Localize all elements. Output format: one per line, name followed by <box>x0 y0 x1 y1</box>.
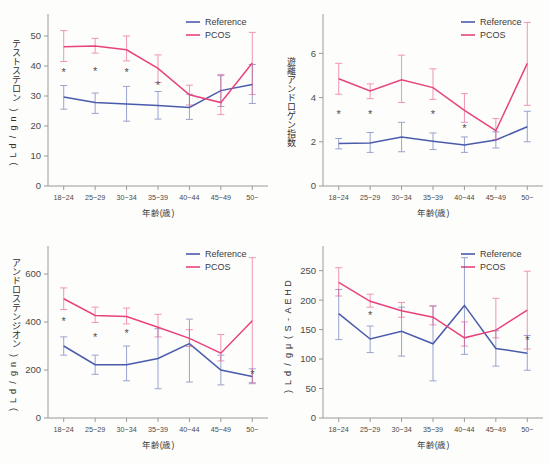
svg-text:μ: μ <box>283 344 293 349</box>
svg-text:D: D <box>283 280 293 287</box>
svg-text:/: / <box>8 135 18 138</box>
x-tick-label: 45~49 <box>211 425 231 434</box>
legend-label-reference: Reference <box>205 249 247 259</box>
y-tick-label: 2 <box>311 136 316 147</box>
significance-marker: * <box>368 108 373 120</box>
significance-marker: * <box>93 331 98 343</box>
svg-text:L: L <box>283 380 293 385</box>
x-tick-label: 40~44 <box>454 425 474 434</box>
significance-marker: * <box>431 108 436 120</box>
y-tick-label: 200 <box>300 295 316 306</box>
x-tick-label: 35~39 <box>423 193 443 202</box>
x-tick-label: 35~39 <box>148 425 168 434</box>
chart-bottom-left: 020040060018~2425~2930~3435~3940~4445~49… <box>0 232 275 463</box>
x-tick-label: 45~49 <box>211 193 231 202</box>
x-tick-label: 25~29 <box>85 193 105 202</box>
x-axis-title: 年齢(歳) <box>142 440 175 450</box>
x-tick-label: 35~39 <box>148 193 168 202</box>
svg-text:(: ( <box>8 109 18 112</box>
x-tick-label: 40~44 <box>179 193 199 202</box>
svg-text:/: / <box>283 363 293 366</box>
error-bar <box>249 258 256 383</box>
significance-marker: * <box>156 79 161 91</box>
error-bar <box>524 111 531 142</box>
svg-text:H: H <box>283 289 293 296</box>
x-tick-label: 50~ <box>246 193 258 202</box>
y-tick-label: 0 <box>36 180 41 191</box>
y-tick-label: 250 <box>300 265 316 276</box>
significance-marker: * <box>368 309 373 321</box>
svg-text:S: S <box>283 325 293 331</box>
y-tick-label: 20 <box>30 120 41 131</box>
svg-text:L: L <box>8 398 18 403</box>
y-tick-label: 40 <box>30 60 41 71</box>
x-tick-label: 25~29 <box>360 425 380 434</box>
error-bar <box>492 298 499 337</box>
svg-text:-: - <box>283 318 293 321</box>
x-tick-label: 40~44 <box>454 193 474 202</box>
legend-label-reference: Reference <box>205 17 247 27</box>
svg-text:n: n <box>8 362 18 367</box>
x-tick-label: 25~29 <box>360 193 380 202</box>
y-axis-title: アンドロステンジオン(ng/dL) <box>8 258 21 412</box>
significance-marker: * <box>337 108 342 120</box>
error-bar <box>123 36 130 61</box>
y-tick-label: 30 <box>30 90 41 101</box>
error-bar <box>123 346 130 381</box>
chart-top-right: 024618~2425~2930~3435~3940~4445~4950~年齢(… <box>275 0 550 231</box>
x-axis-title: 年齢(歳) <box>417 440 450 450</box>
significance-marker: * <box>525 334 530 346</box>
significance-marker: * <box>62 315 67 327</box>
significance-marker: * <box>93 65 98 77</box>
panel-testosterone: 0102030405018~2425~2930~3435~3940~4445~4… <box>0 0 275 231</box>
x-tick-label: 50~ <box>521 425 533 434</box>
y-tick-label: 0 <box>311 180 316 191</box>
x-tick-label: 18~24 <box>54 425 74 434</box>
y-tick-label: 0 <box>311 412 316 423</box>
svg-text:ン: ン <box>12 93 21 103</box>
legend-label-pcos: PCOS <box>205 30 231 40</box>
panel-free-androgen-index: 024618~2425~2930~3435~3940~4445~4950~年齢(… <box>275 0 550 231</box>
x-tick-label: 25~29 <box>85 425 105 434</box>
figure-panel-grid: 0102030405018~2425~2930~3435~3940~4445~4… <box>0 0 550 463</box>
svg-text:): ) <box>8 163 18 166</box>
svg-text:): ) <box>8 408 18 411</box>
x-tick-label: 50~ <box>246 425 258 434</box>
x-tick-label: 30~34 <box>116 193 136 202</box>
svg-text:g: g <box>283 353 293 358</box>
x-axis-title: 年齢(歳) <box>142 208 175 218</box>
svg-text:E: E <box>283 298 293 304</box>
x-tick-label: 18~24 <box>329 425 349 434</box>
svg-text:d: d <box>8 389 18 394</box>
error-bar <box>461 322 468 346</box>
x-tick-label: 30~34 <box>391 193 411 202</box>
svg-text:(: ( <box>283 336 293 339</box>
y-tick-label: 200 <box>25 364 41 375</box>
svg-text:/: / <box>8 381 18 384</box>
y-tick-label: 150 <box>300 324 316 335</box>
significance-marker: * <box>62 66 67 78</box>
y-axis-title: 遊離アンドロゲン指数 <box>287 56 296 148</box>
error-bar <box>430 69 437 100</box>
y-axis-title: DHEA-S(μg/dL) <box>283 280 293 393</box>
svg-text:d: d <box>283 371 293 376</box>
x-tick-label: 35~39 <box>423 425 443 434</box>
legend-label-pcos: PCOS <box>205 262 231 272</box>
x-tick-label: 18~24 <box>329 193 349 202</box>
svg-text:(: ( <box>8 354 18 357</box>
y-axis-title: テストステロン(ng/dL) <box>8 39 21 166</box>
error-bar <box>430 306 437 325</box>
x-tick-label: 30~34 <box>391 425 411 434</box>
y-tick-label: 400 <box>25 316 41 327</box>
x-axis-title: 年齢(歳) <box>417 208 450 218</box>
x-tick-label: 45~49 <box>486 425 506 434</box>
x-tick-label: 18~24 <box>54 193 74 202</box>
error-bar <box>398 55 405 102</box>
significance-marker: * <box>250 368 255 380</box>
svg-text:数: 数 <box>287 137 296 148</box>
error-bar <box>217 74 224 114</box>
y-tick-label: 4 <box>311 92 316 103</box>
legend-label-reference: Reference <box>480 249 522 259</box>
y-tick-label: 50 <box>305 383 316 394</box>
x-tick-label: 40~44 <box>179 425 199 434</box>
